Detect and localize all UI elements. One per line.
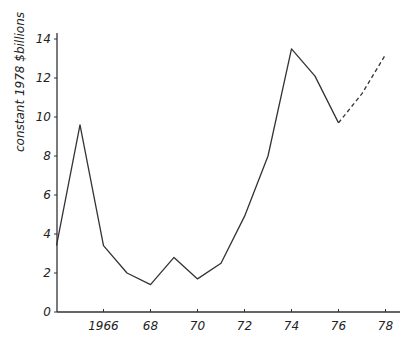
- y-axis-title: constant 1978 $billions: [13, 12, 27, 152]
- x-tick-label: 1966: [88, 319, 119, 333]
- y-tick-label: 8: [43, 149, 51, 163]
- x-tick-label: 74: [284, 319, 299, 333]
- y-tick-label: 6: [43, 188, 51, 202]
- y-tick-label: 14: [36, 32, 51, 46]
- x-tick-label: 78: [378, 319, 394, 333]
- x-tick-label: 72: [237, 319, 252, 333]
- x-tick-label: 70: [190, 319, 206, 333]
- series-line-projected: [339, 55, 386, 123]
- y-tick-label: 10: [36, 110, 52, 124]
- y-tick-label: 4: [43, 227, 51, 241]
- y-tick-label: 2: [43, 266, 51, 280]
- x-tick-label: 68: [143, 319, 159, 333]
- line-chart: constant 1978 $billions 02468101214 1966…: [0, 0, 409, 345]
- y-tick-label: 0: [43, 305, 51, 319]
- y-axis-title-group: constant 1978 $billions: [13, 12, 27, 152]
- data-series: [57, 49, 386, 285]
- series-line-actual: [57, 49, 339, 285]
- y-tick-label: 12: [36, 71, 51, 85]
- y-axis-ticks: 02468101214: [36, 32, 57, 319]
- x-tick-label: 76: [331, 319, 347, 333]
